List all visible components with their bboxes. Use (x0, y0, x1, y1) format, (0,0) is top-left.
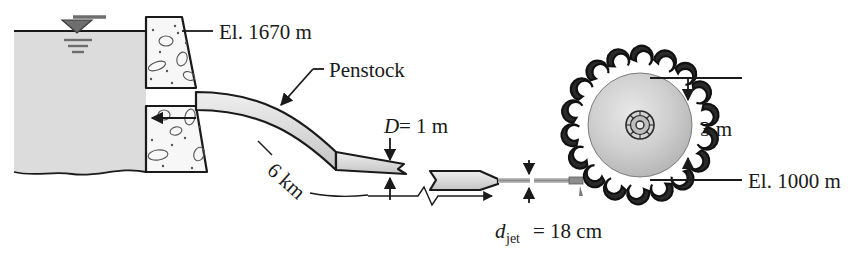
label-penstock-length: 6 km (263, 158, 311, 204)
label-upper-elevation: El. 1670 m (219, 20, 312, 44)
nozzle-tip (569, 177, 583, 184)
water-jet (498, 177, 583, 196)
label-jet-diameter-symbol: d (495, 219, 506, 243)
label-lower-elevation: El. 1000 m (748, 169, 841, 193)
label-wheel-diameter: 3 m (700, 117, 732, 141)
label-penstock: Penstock (329, 58, 405, 82)
dam-upper-block (146, 17, 196, 88)
wheel-hub (626, 111, 654, 139)
diagram-canvas: El. 1670 m Penstock 6 km D = 1 m d (0, 0, 867, 259)
dam-lower-block (146, 106, 207, 172)
penstock-pipe (196, 92, 500, 190)
label-jet-diameter-subscript: jet (505, 231, 520, 246)
label-pipe-diameter-symbol: D (383, 114, 399, 138)
hydroelectric-plant-diagram: El. 1670 m Penstock 6 km D = 1 m d (0, 0, 867, 259)
penstock-leader (281, 69, 324, 105)
label-pipe-diameter-value: = 1 m (399, 114, 448, 138)
label-jet-diameter-value: = 18 cm (533, 219, 602, 243)
